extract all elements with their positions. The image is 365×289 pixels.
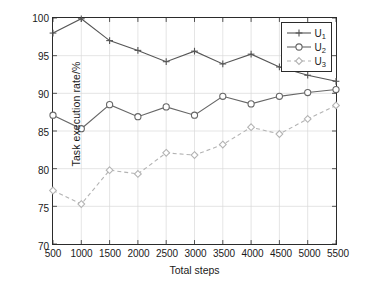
legend-item-U1[interactable]: U1 (286, 26, 326, 40)
legend-label: U1 (315, 28, 326, 39)
x-tick-label: 2000 (127, 248, 149, 259)
chart-figure: 707580859095100 500100015002000250030003… (0, 0, 365, 289)
x-tick-label: 1500 (99, 248, 121, 259)
x-tick-label: 3000 (184, 248, 206, 259)
x-tick-label: 5000 (298, 248, 320, 259)
y-tick-label: 90 (38, 89, 49, 100)
y-tick-label: 80 (38, 165, 49, 176)
x-tick-label: 4000 (241, 248, 263, 259)
chart-legend: U1U2U3 (281, 22, 332, 72)
legend-marker-diamond-icon (286, 55, 312, 67)
legend-label: U2 (315, 42, 326, 53)
x-tick-label: 2500 (156, 248, 178, 259)
legend-item-U3[interactable]: U3 (286, 54, 326, 68)
series-line-U2 (53, 90, 336, 129)
y-tick-label: 95 (38, 51, 49, 62)
y-axis-title: Task execution rate/% (70, 29, 82, 199)
x-tick-label: 1000 (70, 248, 92, 259)
legend-marker-circle-icon (286, 41, 312, 53)
x-tick-label: 3500 (213, 248, 235, 259)
legend-label: U3 (315, 56, 326, 67)
y-tick-label: 100 (32, 13, 49, 24)
y-tick-label: 85 (38, 127, 49, 138)
x-tick-label: 4500 (270, 248, 292, 259)
legend-item-U2[interactable]: U2 (286, 40, 326, 54)
x-axis-title: Total steps (53, 264, 336, 276)
y-tick-label: 75 (38, 203, 49, 214)
x-tick-label: 500 (45, 248, 62, 259)
plot-area: 707580859095100 500100015002000250030003… (52, 17, 337, 245)
legend-marker-plus-icon (286, 27, 312, 39)
x-tick-label: 5500 (327, 248, 349, 259)
